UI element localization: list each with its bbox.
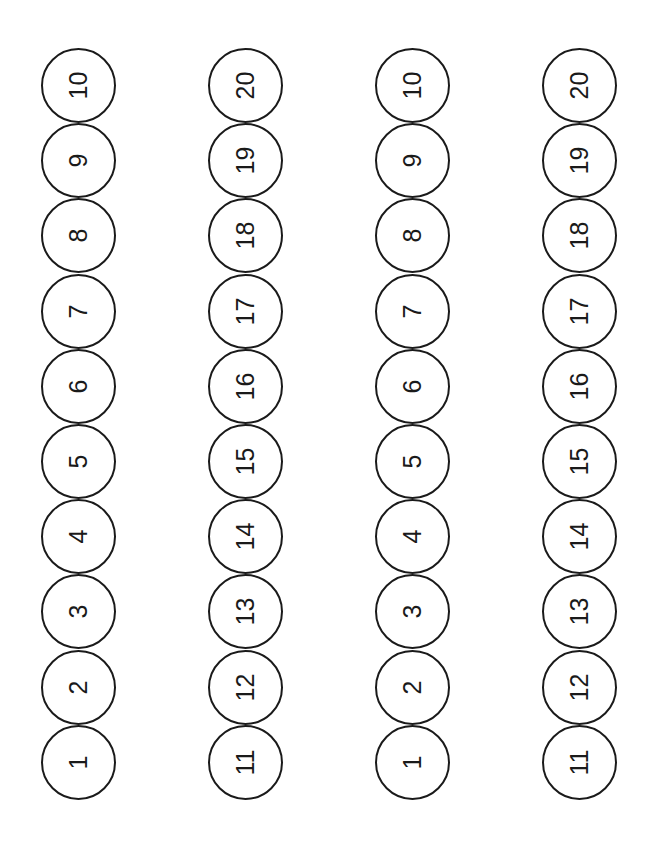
number-circle[interactable]: 2 [41,650,116,725]
number-circle[interactable]: 13 [208,574,283,649]
number-circle[interactable]: 20 [542,48,617,123]
number-circle[interactable]: 16 [208,349,283,424]
number-strip: 20191817161514131211 [542,48,617,800]
number-strip-container: 1098765432120191817161514131211109876543… [0,0,646,843]
number-circle-label: 6 [400,379,425,393]
number-circle-label: 8 [400,229,425,243]
number-circle-label: 6 [66,379,91,393]
number-circle-label: 1 [400,755,425,769]
number-circle[interactable]: 13 [542,574,617,649]
number-circle-label: 12 [567,673,592,701]
number-circle-label: 1 [66,755,91,769]
number-circle[interactable]: 17 [542,274,617,349]
number-circle[interactable]: 10 [41,48,116,123]
number-circle-label: 11 [233,749,258,775]
number-circle-label: 11 [567,749,592,775]
number-circle-label: 10 [66,72,91,100]
number-circle-label: 18 [567,222,592,250]
number-circle-label: 8 [66,229,91,243]
number-circle-label: 14 [233,523,258,551]
number-circle-label: 19 [567,147,592,175]
number-circle[interactable]: 20 [208,48,283,123]
number-circle-label: 14 [567,523,592,551]
number-circle[interactable]: 9 [41,123,116,198]
number-circle[interactable]: 14 [542,499,617,574]
number-circle[interactable]: 7 [375,274,450,349]
number-circle[interactable]: 18 [208,198,283,273]
number-circle-label: 17 [567,297,592,325]
number-circle-label: 4 [400,530,425,544]
number-circle-label: 7 [66,304,91,318]
number-circle[interactable]: 1 [375,725,450,800]
number-circle-label: 18 [233,222,258,250]
number-circle-label: 12 [233,673,258,701]
number-circle-label: 3 [400,605,425,619]
number-circle[interactable]: 17 [208,274,283,349]
number-circle-label: 16 [233,372,258,400]
number-circle-label: 9 [400,154,425,168]
number-circle[interactable]: 9 [375,123,450,198]
number-circle[interactable]: 3 [375,574,450,649]
number-circle-label: 5 [66,454,91,468]
number-circle-label: 15 [233,448,258,476]
number-circle[interactable]: 4 [375,499,450,574]
number-circle[interactable]: 19 [208,123,283,198]
number-circle-label: 3 [66,605,91,619]
number-circle-label: 7 [400,304,425,318]
number-circle[interactable]: 15 [208,424,283,499]
number-circle[interactable]: 12 [542,650,617,725]
number-strip: 20191817161514131211 [208,48,283,800]
number-circle[interactable]: 1 [41,725,116,800]
number-circle[interactable]: 6 [375,349,450,424]
number-circle[interactable]: 7 [41,274,116,349]
number-circle[interactable]: 3 [41,574,116,649]
number-circle-label: 15 [567,448,592,476]
number-circle[interactable]: 19 [542,123,617,198]
number-circle-label: 2 [400,680,425,694]
number-circle[interactable]: 14 [208,499,283,574]
number-circle[interactable]: 8 [41,198,116,273]
number-circle[interactable]: 4 [41,499,116,574]
number-strip: 10987654321 [41,48,116,800]
number-circle[interactable]: 12 [208,650,283,725]
number-circle-label: 20 [567,72,592,100]
number-circle[interactable]: 2 [375,650,450,725]
number-circle[interactable]: 5 [375,424,450,499]
number-circle-label: 2 [66,680,91,694]
number-circle-label: 10 [400,72,425,100]
number-circle-label: 5 [400,454,425,468]
number-circle-label: 13 [233,598,258,626]
number-circle-label: 13 [567,598,592,626]
number-circle[interactable]: 6 [41,349,116,424]
number-circle[interactable]: 10 [375,48,450,123]
number-circle-label: 16 [567,372,592,400]
number-circle[interactable]: 5 [41,424,116,499]
number-circle-label: 19 [233,147,258,175]
number-strip: 10987654321 [375,48,450,800]
number-circle-label: 4 [66,530,91,544]
number-circle[interactable]: 18 [542,198,617,273]
number-circle[interactable]: 11 [208,725,283,800]
number-circle-label: 20 [233,72,258,100]
number-circle-label: 17 [233,297,258,325]
number-circle[interactable]: 8 [375,198,450,273]
number-circle[interactable]: 15 [542,424,617,499]
worksheet-page: 1098765432120191817161514131211109876543… [0,0,646,843]
number-circle[interactable]: 11 [542,725,617,800]
number-circle-label: 9 [66,154,91,168]
number-circle[interactable]: 16 [542,349,617,424]
